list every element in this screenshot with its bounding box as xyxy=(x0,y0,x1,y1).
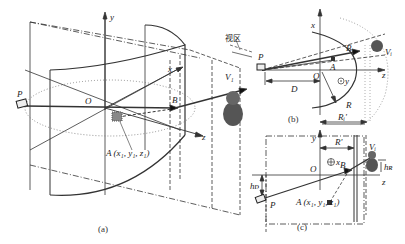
c-origin-label: O xyxy=(310,164,317,174)
point-a-marker-b xyxy=(331,57,335,61)
c-axis-y-label: y xyxy=(311,133,316,143)
c-viewer-label: Vᵢ xyxy=(369,142,376,152)
point-p-label: P xyxy=(16,89,23,99)
view-zone-label: 视区 xyxy=(225,33,241,43)
c-point-b-label: B xyxy=(340,160,346,170)
b-axis-x-label: x xyxy=(310,20,315,30)
projector-icon-c xyxy=(255,194,266,203)
b-point-a-label: A xyxy=(329,62,336,72)
b-distance-label: D xyxy=(290,84,298,94)
projector-icon xyxy=(16,99,27,108)
diagram-svg: y x z O P B A (x₁, y₁, z₁) V₁ 视区 (a) xyxy=(0,0,405,244)
origin-label: O xyxy=(85,96,92,106)
b-radius-label: R xyxy=(345,100,352,110)
b-radius-prime-label: Rᵢ' xyxy=(337,112,348,122)
b-origin-label: O xyxy=(313,71,320,81)
figure-canvas: y x z O P B A (x₁, y₁, z₁) V₁ 视区 (a) xyxy=(0,0,405,244)
point-a-marker xyxy=(112,112,122,121)
caption-b: (b) xyxy=(288,114,299,124)
viewer-icon-b xyxy=(371,40,383,52)
b-point-p-label: P xyxy=(257,52,264,62)
point-b-label: B xyxy=(172,95,178,105)
caption-a: (a) xyxy=(98,224,108,234)
viewer-icon xyxy=(223,91,243,126)
b-viewer-label: Vᵢ xyxy=(385,47,392,57)
axis-x-label: x xyxy=(167,64,172,74)
b-axis-y-label: y xyxy=(344,76,349,86)
point-a-label: A (x₁, y₁, z₁) xyxy=(105,148,149,158)
axis-y-label: y xyxy=(109,12,114,22)
c-radius-prime-label: R' xyxy=(334,137,343,147)
c-point-a-label: A (x₁, y₁, z₁) xyxy=(295,197,339,207)
b-axis-z-label: z xyxy=(381,70,386,80)
c-height-r-label: hʀ xyxy=(384,162,393,172)
viewer-label: V₁ xyxy=(225,72,234,82)
panel-a xyxy=(25,12,247,215)
c-axis-z-label: z xyxy=(381,177,386,187)
axis-z-label: z xyxy=(201,132,206,142)
c-point-p-label: P xyxy=(269,200,276,210)
panel-b xyxy=(262,9,388,125)
projector-icon-b xyxy=(257,64,265,70)
viewer-icon-c xyxy=(366,151,378,172)
b-point-b-label: B xyxy=(346,43,352,53)
panel-c xyxy=(252,124,386,232)
caption-c: (c) xyxy=(297,222,307,232)
c-height-d-label: hᴅ xyxy=(250,181,260,191)
